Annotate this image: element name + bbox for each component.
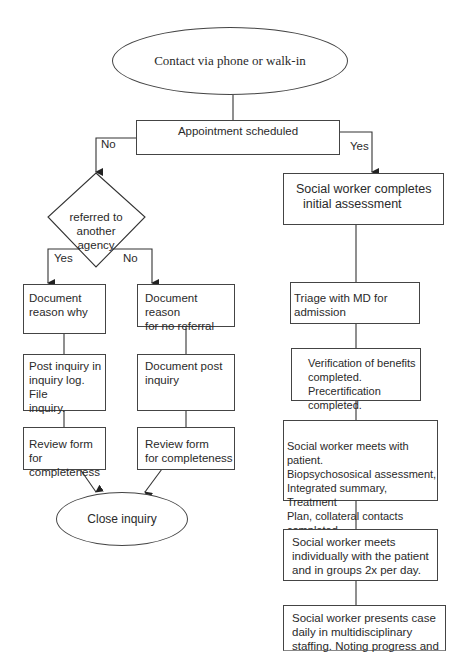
post-inquiry-box: Post inquiry in inquiry log. File inquir… bbox=[23, 354, 106, 411]
yes-label-referral: Yes bbox=[54, 252, 73, 264]
biopsychosocial-box: Social worker meets with patient. Biopsy… bbox=[283, 420, 438, 501]
initial-assessment-box: Social worker completes initial assessme… bbox=[283, 173, 444, 225]
verification-box: Verification of benefits completed. Prec… bbox=[291, 348, 421, 401]
yes-label-appointment: Yes bbox=[350, 140, 369, 152]
review-form-left-box: Review form for completeness bbox=[23, 427, 106, 470]
start-node: Contact via phone or walk-in bbox=[112, 27, 348, 95]
no-label-referral: No bbox=[123, 252, 138, 264]
meets-individually-box: Social worker meets individually with th… bbox=[283, 529, 438, 581]
appointment-decision-box: Appointment scheduled bbox=[136, 120, 340, 155]
document-post-inquiry-box: Document post inquiry bbox=[137, 354, 235, 411]
diamond-line-2: another bbox=[50, 224, 142, 238]
start-label: Contact via phone or walk-in bbox=[154, 53, 306, 69]
document-reason-why-box: Document reason why bbox=[23, 284, 106, 334]
no-label-appointment: No bbox=[101, 138, 116, 150]
appointment-label: Appointment scheduled bbox=[178, 125, 298, 137]
document-no-referral-box: Document reason for no referral bbox=[137, 284, 235, 327]
triage-box: Triage with MD for admission bbox=[290, 282, 420, 324]
diamond-line-3: agency bbox=[50, 238, 142, 252]
close-inquiry-label: Close inquiry bbox=[87, 512, 156, 526]
review-form-middle-box: Review form for completeness bbox=[137, 427, 235, 470]
presents-case-box: Social worker presents case daily in mul… bbox=[283, 605, 446, 651]
diamond-line-1: referred to bbox=[50, 210, 142, 224]
close-inquiry-node: Close inquiry bbox=[56, 492, 188, 546]
